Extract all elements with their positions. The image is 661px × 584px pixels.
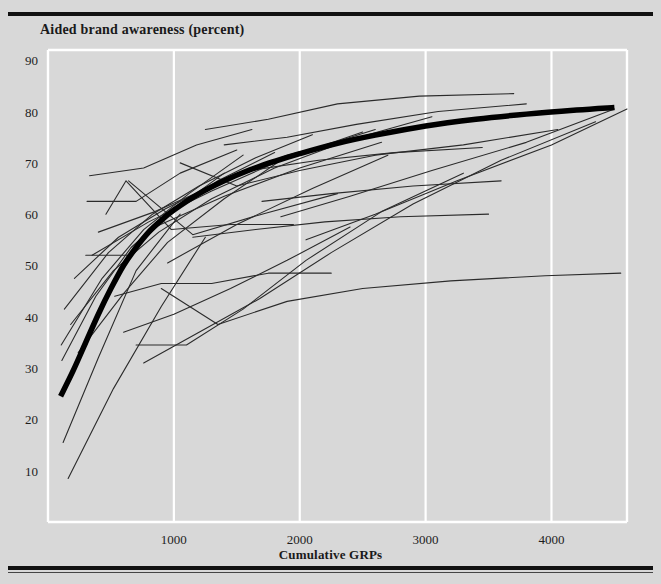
axis-frame-layer xyxy=(48,50,627,522)
series-line xyxy=(193,214,489,237)
y-tick-label: 20 xyxy=(25,412,38,427)
series-line xyxy=(224,104,526,145)
y-tick-label: 50 xyxy=(25,258,38,273)
x-tick-label: 3000 xyxy=(413,532,439,547)
y-tick-label: 60 xyxy=(25,207,38,222)
series-line xyxy=(90,130,252,176)
y-tick-label: 40 xyxy=(25,310,38,325)
x-tick-label: 1000 xyxy=(161,532,187,547)
y-tick-label: 90 xyxy=(25,53,38,68)
series-line xyxy=(68,237,205,478)
x-tick-label: 4000 xyxy=(538,532,564,547)
y-tick-labels: 102030405060708090 xyxy=(25,53,38,478)
series-line xyxy=(144,122,596,363)
y-tick-label: 70 xyxy=(25,156,38,171)
series-line xyxy=(106,181,294,230)
mean-response-curve xyxy=(61,107,615,396)
x-tick-label: 2000 xyxy=(287,532,313,547)
figure-container: Aided brand awareness (percent) 10002000… xyxy=(0,0,661,584)
y-tick-label: 30 xyxy=(25,361,38,376)
series-line xyxy=(155,142,382,227)
y-tick-label: 10 xyxy=(25,464,38,479)
x-tick-labels: 1000200030004000 xyxy=(161,532,565,547)
mean-curve-layer xyxy=(61,107,615,396)
series-lines-layer xyxy=(61,94,627,479)
y-tick-label: 80 xyxy=(25,105,38,120)
chart-plot-area: 1000200030004000 102030405060708090 xyxy=(0,0,661,584)
x-axis-title: Cumulative GRPs xyxy=(0,547,661,563)
gridlines-layer xyxy=(174,50,552,522)
series-line xyxy=(262,181,501,202)
